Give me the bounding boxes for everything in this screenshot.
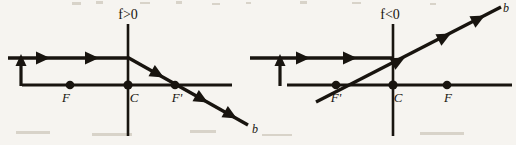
right-ray-label-b: b <box>503 1 509 15</box>
ray-diagram-svg: F C F' f>0 b <box>0 0 516 145</box>
left-refracted-arrowhead-1 <box>148 65 167 83</box>
right-label-C: C <box>394 90 403 105</box>
left-point-F-prime <box>171 81 180 90</box>
right-label-F: F <box>443 90 453 105</box>
left-label-F: F <box>61 90 71 105</box>
right-refracted-arrowhead-2 <box>435 28 453 46</box>
left-refracted-arrowhead-2 <box>192 90 211 108</box>
right-incoming-arrowhead-1 <box>296 52 310 65</box>
left-ray-label-b: b <box>252 122 258 136</box>
figure-canvas: F C F' f>0 b <box>0 0 516 145</box>
left-incoming-arrowhead-2 <box>85 52 99 65</box>
left-label-F-prime: F' <box>171 90 183 105</box>
left-point-C <box>123 80 132 89</box>
right-point-F <box>443 81 452 90</box>
right-riser-arrowhead <box>275 54 286 66</box>
diagram-right: F' C F f<0 b <box>250 1 512 136</box>
right-condition-label: f<0 <box>380 7 400 22</box>
diagram-left: F C F' f>0 b <box>8 7 258 136</box>
right-label-F-prime: F' <box>330 90 342 105</box>
right-point-F-prime <box>332 81 341 90</box>
left-riser-arrowhead <box>16 54 27 66</box>
left-label-C: C <box>130 90 139 105</box>
left-point-F <box>66 81 75 90</box>
right-incoming-arrowhead-2 <box>343 52 357 65</box>
right-point-C <box>388 80 397 89</box>
right-refracted-arrowhead-3 <box>469 10 487 28</box>
left-incoming-arrowhead-1 <box>36 52 50 65</box>
left-condition-label: f>0 <box>118 7 138 22</box>
left-refracted-arrowhead-3 <box>221 106 240 124</box>
